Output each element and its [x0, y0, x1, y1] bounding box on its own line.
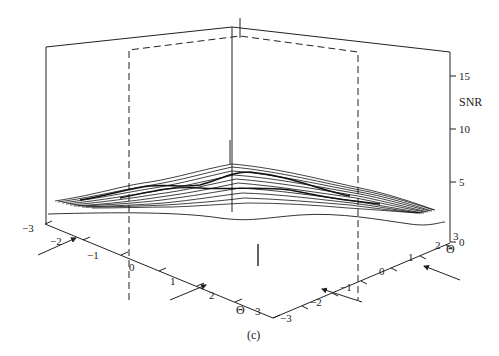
x-axis-title: Θ — [236, 304, 245, 316]
y-tick-neg1: −1 — [340, 282, 352, 293]
surface-base-curve — [48, 213, 445, 225]
x-tick-neg2: −2 — [50, 236, 62, 247]
surface-mesh — [55, 164, 435, 213]
x-tick-0: 0 — [129, 262, 135, 273]
x-tick-1: 1 — [170, 276, 176, 287]
z-axis-title: SNR — [459, 96, 482, 108]
y-tick-neg2: −2 — [310, 297, 322, 308]
z-tick-15: 15 — [459, 71, 470, 82]
z-tick-5: 5 — [459, 177, 465, 188]
arrow-left-pos2 — [170, 285, 206, 300]
y-tick-0: 0 — [379, 266, 385, 277]
y-tick-1: 1 — [408, 252, 414, 263]
front-right-axis — [273, 243, 450, 318]
x-tick-neg1: −1 — [87, 250, 99, 261]
arrow-right-pos2 — [424, 266, 460, 280]
y-axis-title: Θ — [446, 243, 455, 255]
x-tick-neg3: −3 — [22, 223, 34, 234]
y-tick-neg3: −3 — [280, 313, 292, 324]
snr-surface-plot — [0, 0, 499, 356]
y-tick-3: 3 — [453, 231, 459, 242]
x-tick-3: 3 — [255, 306, 261, 317]
x-tick-2: 2 — [209, 290, 215, 301]
y-tick-2: 2 — [435, 240, 441, 251]
figure-caption: (c) — [247, 328, 260, 343]
z-tick-0: 0 — [459, 237, 465, 248]
z-tick-10: 10 — [459, 124, 470, 135]
